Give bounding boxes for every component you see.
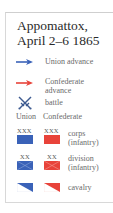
confederate-division-icon (44, 161, 60, 170)
battle-label: battle (45, 99, 63, 108)
confederate-corps-symbol: XXX (44, 127, 59, 134)
union-division-symbol: XX (20, 153, 30, 160)
title-line-1: Appomattox, (17, 18, 100, 33)
corps-label: corps (infantry) (68, 130, 99, 147)
confederate-cavalry-icon (44, 183, 60, 192)
union-column-header: Union (16, 113, 36, 122)
crossed-swords-icon (17, 96, 33, 110)
union-division-icon (17, 161, 33, 170)
blue-arrow-icon (16, 58, 34, 66)
union-corps-icon (17, 135, 33, 144)
red-arrow-icon (16, 79, 34, 87)
division-label: division (infantry) (68, 155, 99, 172)
title-line-2: April 2–6 1865 (17, 33, 100, 48)
confederate-division-symbol: XX (47, 153, 57, 160)
confederate-column-header: Confederate (43, 113, 82, 122)
cavalry-label: cavalry (68, 184, 92, 193)
union-cavalry-icon (17, 183, 33, 192)
confederate-corps-icon (44, 135, 60, 144)
legend-title: Appomattox, April 2–6 1865 (17, 18, 100, 48)
union-advance-label: Union advance (45, 58, 93, 67)
confederate-advance-label: Confederate advance (45, 78, 84, 95)
union-corps-symbol: XXX (17, 127, 32, 134)
